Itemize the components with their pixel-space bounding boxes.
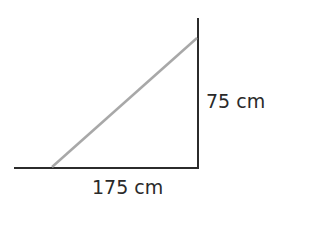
hypotenuse	[52, 38, 197, 167]
vertical-length-label: 75 cm	[206, 92, 265, 111]
horizontal-length-label: 175 cm	[92, 178, 163, 197]
